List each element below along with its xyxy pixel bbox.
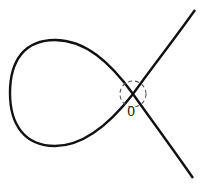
node-label: 0 [127,104,135,119]
curve-diagram [0,0,205,184]
nodal-curve [10,10,195,178]
